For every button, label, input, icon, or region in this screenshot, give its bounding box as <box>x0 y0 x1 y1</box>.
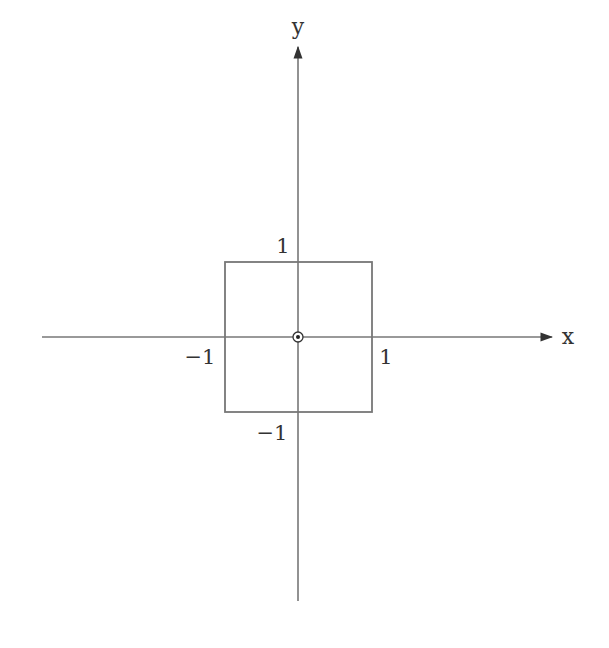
tick-label-y-pos: 1 <box>276 234 289 258</box>
tick-label-x-neg: −1 <box>185 345 216 369</box>
y-axis-label: y <box>291 14 305 39</box>
tick-label-y-neg: −1 <box>257 421 288 445</box>
coordinate-diagram: y x 1 −1 1 −1 <box>0 0 609 648</box>
x-axis-label: x <box>562 324 575 349</box>
tick-label-x-pos: 1 <box>379 345 392 369</box>
origin-marker <box>293 332 303 342</box>
